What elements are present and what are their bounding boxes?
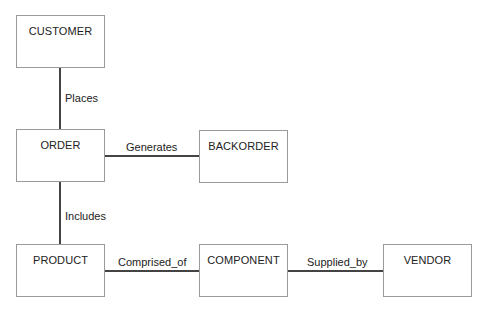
connector-supplied-by [288,270,383,272]
relationship-label-includes: Includes [65,210,106,222]
entity-vendor: VENDOR [383,244,472,297]
connector-comprised-of [105,270,199,272]
entity-label: BACKORDER [200,140,287,152]
entity-product: PRODUCT [16,244,105,297]
relationship-label-supplied-by: Supplied_by [307,256,368,268]
relationship-label-comprised-of: Comprised_of [118,256,186,268]
entity-customer: CUSTOMER [16,15,105,68]
entity-backorder: BACKORDER [199,130,288,183]
connector-includes [59,182,61,244]
entity-component: COMPONENT [199,244,288,297]
relationship-label-generates: Generates [126,141,177,153]
entity-label: CUSTOMER [17,25,104,37]
connector-places [59,68,61,129]
entity-label: ORDER [17,139,104,151]
entity-order: ORDER [16,129,105,182]
connector-generates [105,155,199,157]
entity-label: VENDOR [384,254,471,266]
relationship-label-places: Places [65,92,98,104]
entity-label: COMPONENT [200,254,287,266]
entity-label: PRODUCT [17,254,104,266]
